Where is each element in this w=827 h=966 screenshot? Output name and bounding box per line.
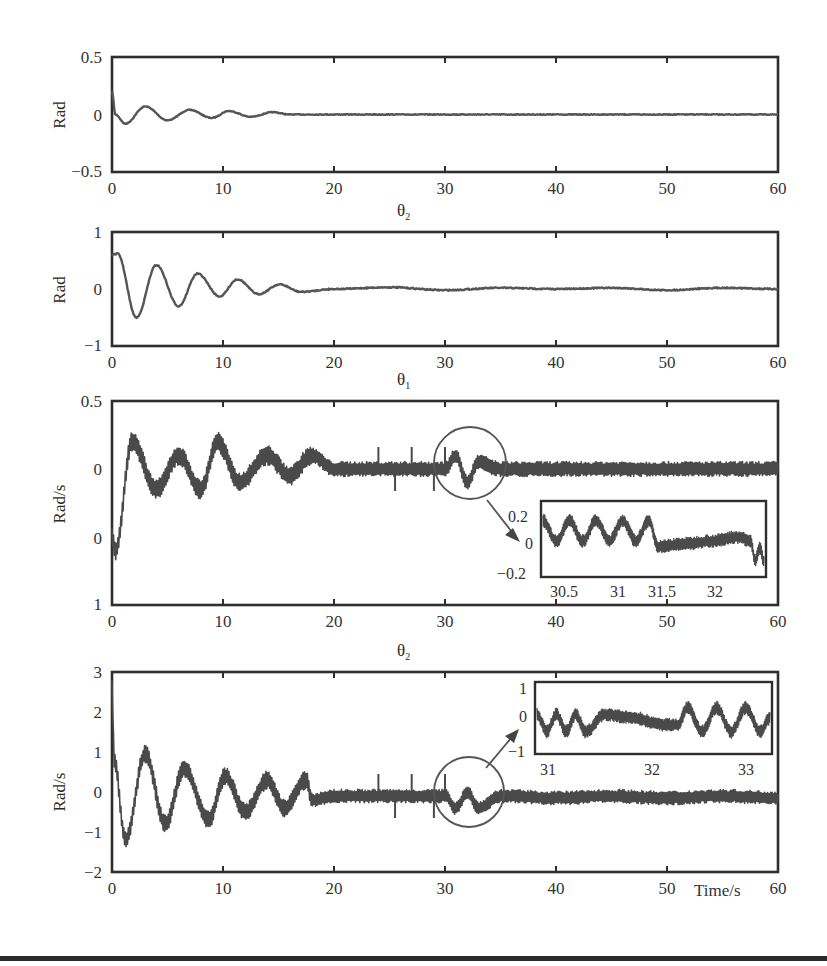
panel1-xtick: 40 xyxy=(536,180,576,197)
panel4-xlabel: Time/s xyxy=(694,882,741,899)
figure: Rad 0.5 0 −0.5 0102030405060 θ2 Rad 1 0 … xyxy=(0,0,827,966)
panel4-xtick: 60 xyxy=(758,880,798,897)
panel2-xtick: 30 xyxy=(425,354,465,371)
panel4-inset-xtick: 32 xyxy=(644,761,660,779)
panel3-inset-xtick: 30.5 xyxy=(550,583,578,601)
panel3-inset-xtick: 31.5 xyxy=(648,583,676,601)
arrowhead-icon xyxy=(505,528,520,542)
panel4-inset-xtick: 31 xyxy=(540,761,556,779)
panel2-ytick: 1 xyxy=(62,224,102,241)
panel4-xtick: 30 xyxy=(425,880,465,897)
panel1-xtick: 10 xyxy=(203,180,243,197)
panel3-ylabel: Rad/s xyxy=(50,474,70,534)
panel3-inset-xtick: 31 xyxy=(610,583,626,601)
panel1-xtick: 0 xyxy=(92,180,132,197)
panel4-ytick: 3 xyxy=(62,664,102,681)
panel1-xtick: 50 xyxy=(647,180,687,197)
panel3-xtick: 50 xyxy=(647,613,687,630)
panel4-xtick: 40 xyxy=(536,880,576,897)
panel4-inset-ytick: −1 xyxy=(508,743,525,761)
panel2-title: θ2 xyxy=(397,201,410,222)
panel4-title: θ2 xyxy=(397,641,410,662)
panel4-inset-ytick: 1 xyxy=(519,680,527,698)
panel3-ytick: 0 xyxy=(62,530,102,547)
arrowhead-icon xyxy=(505,729,519,743)
panel3-xtick: 20 xyxy=(314,613,354,630)
panel1-xtick: 60 xyxy=(758,180,798,197)
panel1-ytick: 0 xyxy=(62,107,102,124)
panel4-ytick: −1 xyxy=(62,824,102,841)
panel3-inset-ytick: 0 xyxy=(525,535,533,553)
panel3-title: θ1 xyxy=(397,370,410,391)
panel3-xtick: 0 xyxy=(92,613,132,630)
panel4-xtick: 0 xyxy=(92,880,132,897)
panel2-xtick: 40 xyxy=(536,354,576,371)
panel2-xtick: 60 xyxy=(758,354,798,371)
panel4-ytick: 1 xyxy=(62,744,102,761)
panel2-xtick: 10 xyxy=(203,354,243,371)
panel4-xtick: 10 xyxy=(203,880,243,897)
panel4-xtick: 20 xyxy=(314,880,354,897)
panel3-ytick: 0.5 xyxy=(62,393,102,410)
panel4-ytick: −2 xyxy=(62,864,102,881)
panel3-xtick: 40 xyxy=(536,613,576,630)
panel4-ytick: 2 xyxy=(62,704,102,721)
panel1-xtick: 20 xyxy=(314,180,354,197)
panel1-xtick: 30 xyxy=(425,180,465,197)
panel2-xtick: 20 xyxy=(314,354,354,371)
panel1-ytick: 0.5 xyxy=(62,49,102,66)
panel4-inset-xtick: 33 xyxy=(738,761,754,779)
panel1-ytick: −0.5 xyxy=(62,163,102,180)
panel2-xtick: 0 xyxy=(92,354,132,371)
panel3-inset-xtick: 32 xyxy=(707,583,723,601)
panel2-trace xyxy=(112,253,778,318)
panel3-xtick: 30 xyxy=(425,613,465,630)
panel4-xtick: 50 xyxy=(647,880,687,897)
panel2-xtick: 50 xyxy=(647,354,687,371)
panel3-ytick: 1 xyxy=(62,596,102,613)
panel3-inset-ytick: 0.2 xyxy=(508,508,528,526)
panel4-inset-ytick: 0 xyxy=(519,708,527,726)
page-divider-rule xyxy=(0,956,827,961)
panel2-ytick: 0 xyxy=(62,281,102,298)
panel3-inset-ytick: −0.2 xyxy=(497,565,526,583)
panel3-ytick: 0 xyxy=(62,461,102,478)
panel1-trace xyxy=(112,91,778,124)
panel3-xtick: 10 xyxy=(203,613,243,630)
panel3-xtick: 60 xyxy=(758,613,798,630)
panel2-ytick: −1 xyxy=(62,337,102,354)
plot-canvas xyxy=(0,0,827,966)
panel4-ytick: 0 xyxy=(62,784,102,801)
